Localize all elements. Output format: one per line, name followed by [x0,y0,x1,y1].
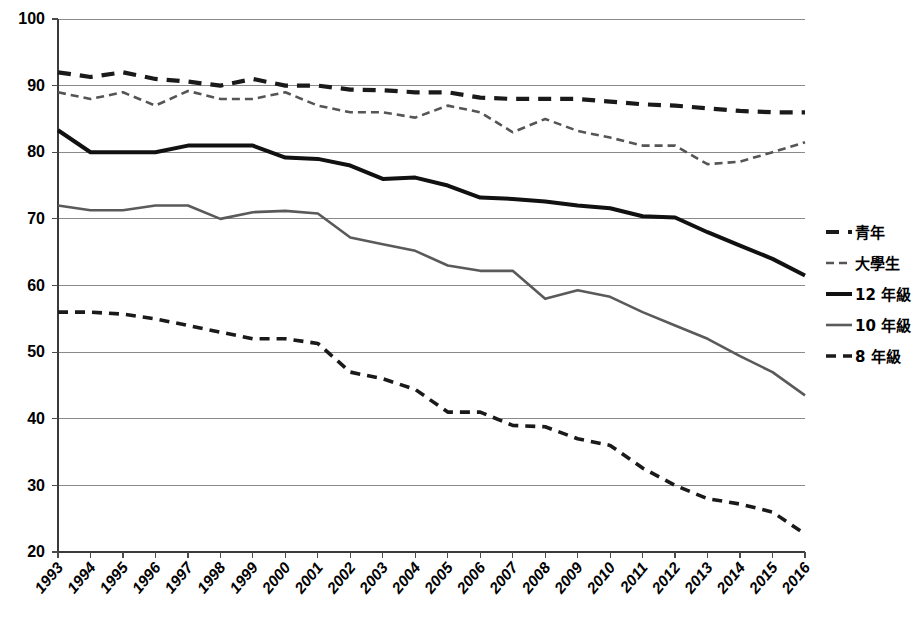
legend-label-3: 10 年級 [855,317,912,335]
y-tick-label-60: 60 [27,277,45,294]
y-tick-label-50: 50 [27,343,45,360]
y-tick-label-80: 80 [27,143,45,160]
y-tick-label-30: 30 [27,477,45,494]
legend-label-2: 12 年級 [855,286,912,304]
legend-label-0: 青年 [855,224,885,242]
line-chart: 2030405060708090100 19931994199519961997… [0,0,916,617]
y-tick-label-20: 20 [27,543,45,560]
y-tick-label-70: 70 [27,210,45,227]
legend-label-4: 8 年級 [855,348,902,366]
y-tick-label-100: 100 [18,10,45,27]
legend-label-1: 大學生 [855,255,900,273]
y-tick-label-40: 40 [27,410,45,427]
y-tick-label-90: 90 [27,77,45,94]
chart-canvas: 2030405060708090100 19931994199519961997… [0,0,916,617]
